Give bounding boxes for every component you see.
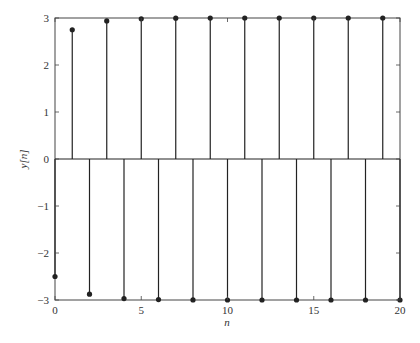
x-tick-label: 10 — [222, 304, 234, 316]
y-tick-label: 2 — [44, 59, 50, 71]
y-tick-label: −2 — [37, 247, 49, 259]
stem-point — [242, 15, 247, 159]
stem-point — [346, 15, 351, 159]
y-tick-label: −1 — [37, 200, 49, 212]
stem-point — [87, 159, 92, 297]
stem-point — [52, 159, 57, 279]
stem-point — [208, 15, 213, 159]
stem-point — [380, 15, 385, 159]
stem-point — [277, 15, 282, 159]
stem-point — [121, 159, 126, 301]
stem-point — [259, 159, 264, 303]
stem-plot: 05101520 −3−2−10123 n y[n] — [0, 0, 420, 343]
stem-point — [139, 16, 144, 159]
stem-point — [70, 27, 75, 159]
x-tick-label: 5 — [139, 304, 145, 316]
stem-point — [294, 159, 299, 303]
x-tick-label: 0 — [52, 304, 58, 316]
stem-point — [397, 159, 402, 303]
y-axis-label: y[n] — [17, 150, 29, 170]
x-tick-label: 20 — [395, 304, 407, 316]
y-tick-label: −3 — [37, 294, 49, 306]
stem-point — [311, 15, 316, 159]
x-axis-label: n — [224, 316, 230, 328]
stem-point — [190, 159, 195, 303]
y-tick-label: 1 — [44, 106, 50, 118]
x-axis-ticks: 05101520 — [52, 18, 406, 316]
stem-point — [104, 18, 109, 159]
stem-point — [363, 159, 368, 303]
stem-point — [156, 159, 161, 302]
y-tick-label: 0 — [44, 153, 50, 165]
stem-point — [328, 159, 333, 303]
stem-point — [173, 16, 178, 159]
x-tick-label: 15 — [308, 304, 320, 316]
y-tick-label: 3 — [44, 12, 50, 24]
stem-point — [225, 159, 230, 303]
